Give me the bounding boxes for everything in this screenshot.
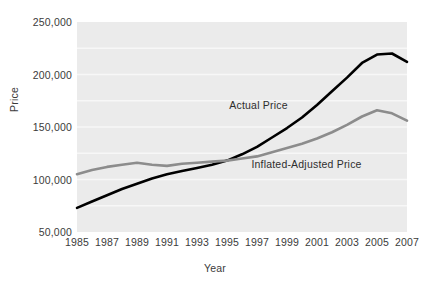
y-tick-label: 200,000 bbox=[0, 69, 72, 80]
y-tick-label: 250,000 bbox=[0, 17, 72, 28]
x-tick-label: 1997 bbox=[245, 236, 269, 248]
x-axis-title: Year bbox=[0, 262, 430, 274]
x-tick-label: 1989 bbox=[125, 236, 149, 248]
series-line bbox=[77, 54, 407, 208]
price-line-chart: 250,000200,000150,000100,00050,000 Price… bbox=[0, 0, 430, 287]
series-lines bbox=[77, 22, 407, 232]
y-tick-label: 100,000 bbox=[0, 174, 72, 185]
y-tick-label: 150,000 bbox=[0, 122, 72, 133]
y-axis-title: Price bbox=[8, 87, 20, 112]
x-tick-label: 1987 bbox=[95, 236, 119, 248]
series-label: Actual Price bbox=[229, 99, 287, 111]
x-tick-label: 1991 bbox=[155, 236, 179, 248]
x-tick-label: 1993 bbox=[185, 236, 209, 248]
x-tick-label: 2005 bbox=[365, 236, 389, 248]
series-label: Inflated-Adjusted Price bbox=[251, 158, 361, 170]
x-tick-label: 1995 bbox=[215, 236, 239, 248]
plot-area bbox=[77, 22, 407, 232]
x-tick-label: 1985 bbox=[65, 236, 89, 248]
x-axis-tick-labels: 1985198719891991199319951997199920012003… bbox=[0, 236, 430, 252]
x-tick-label: 2003 bbox=[335, 236, 359, 248]
x-tick-label: 1999 bbox=[275, 236, 299, 248]
x-tick-label: 2001 bbox=[305, 236, 329, 248]
x-tick-label: 2007 bbox=[395, 236, 419, 248]
